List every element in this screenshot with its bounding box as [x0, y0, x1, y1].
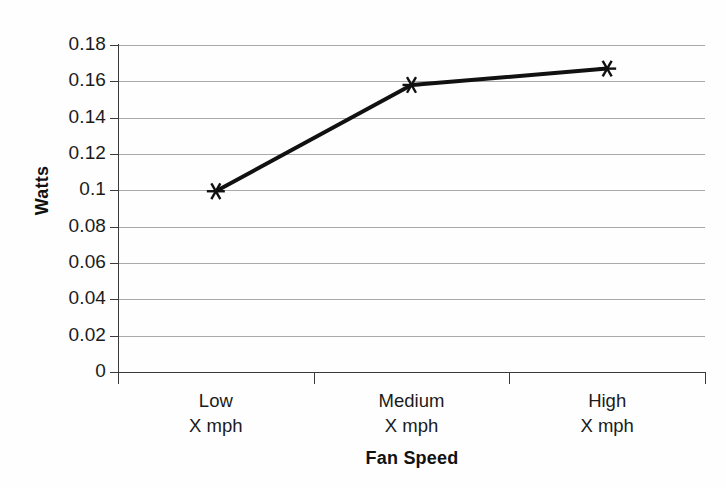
category-sublabel: X mph	[314, 413, 510, 438]
x-axis-title: Fan Speed	[118, 448, 706, 469]
gridline	[118, 118, 705, 119]
y-axis-tick	[110, 118, 119, 119]
gridline	[118, 45, 705, 46]
y-axis-tick-label: 0.08	[46, 215, 106, 237]
category-name: Low	[199, 390, 233, 411]
chart-screenshot: 00.020.040.060.080.10.120.140.160.18 Low…	[0, 0, 726, 487]
y-axis-tick	[110, 336, 119, 337]
gridline	[118, 299, 705, 300]
y-axis-tick-label: 0.16	[46, 69, 106, 91]
x-axis-tick-label: LowX mph	[118, 388, 314, 438]
gridline	[118, 227, 705, 228]
category-sublabel: X mph	[118, 413, 314, 438]
category-sublabel: X mph	[509, 413, 705, 438]
x-axis-tick-label: MediumX mph	[314, 388, 510, 438]
x-axis-tick-label: HighX mph	[509, 388, 705, 438]
x-axis-tick	[705, 373, 706, 384]
y-axis-tick-label: 0.12	[46, 142, 106, 164]
y-axis-tick	[110, 190, 119, 191]
y-axis-tick	[110, 299, 119, 300]
y-axis-tick	[110, 227, 119, 228]
y-axis-line	[118, 44, 119, 374]
y-axis-tick-label: 0.14	[46, 106, 106, 128]
gridline	[118, 154, 705, 155]
x-axis-tick	[509, 373, 510, 384]
y-axis-tick	[110, 81, 119, 82]
gridline	[118, 81, 705, 82]
gridline	[118, 190, 705, 191]
plot-area	[118, 45, 705, 372]
y-axis-tick	[110, 45, 119, 46]
x-axis-tick	[314, 373, 315, 384]
category-name: High	[588, 390, 626, 411]
y-axis-tick-label: 0.18	[46, 33, 106, 55]
x-axis-tick	[118, 373, 119, 384]
y-axis-tick-label: 0.04	[46, 287, 106, 309]
y-axis-tick	[110, 154, 119, 155]
y-axis-tick	[110, 263, 119, 264]
y-axis-tick-labels: 00.020.040.060.080.10.120.140.160.18	[40, 0, 106, 487]
y-axis-tick-label: 0	[46, 360, 106, 382]
y-axis-tick-label: 0.02	[46, 324, 106, 346]
gridline	[118, 263, 705, 264]
x-axis-line	[118, 372, 706, 373]
y-axis-tick-label: 0.06	[46, 251, 106, 273]
category-name: Medium	[379, 390, 445, 411]
y-axis-title: Watts	[32, 163, 53, 219]
gridline	[118, 336, 705, 337]
y-axis-tick-label: 0.1	[46, 178, 106, 200]
